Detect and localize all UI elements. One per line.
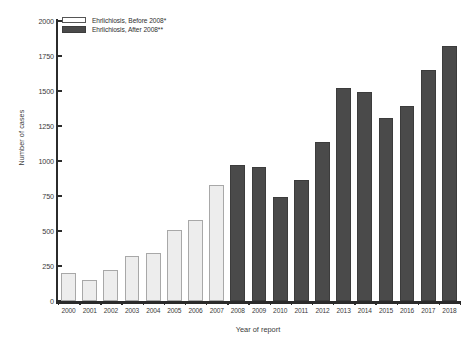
bar-2001[interactable]	[82, 280, 97, 301]
x-axis-tick	[121, 301, 122, 305]
x-axis-tick-label: 2012	[315, 307, 329, 314]
x-axis-tick-label: 2016	[400, 307, 414, 314]
bar-2012[interactable]	[315, 142, 330, 301]
bar-2008[interactable]	[230, 165, 245, 301]
y-axis-tick-label: 1750	[14, 52, 54, 61]
x-axis-tick	[185, 301, 186, 305]
bar-slot	[209, 21, 224, 301]
bar-slot	[379, 21, 394, 301]
x-axis-tick	[270, 301, 271, 305]
x-axis-tick	[206, 301, 207, 305]
bar-slot	[336, 21, 351, 301]
x-axis-tick-label: 2011	[295, 307, 309, 314]
y-axis-tick-label: 0	[14, 297, 54, 306]
bar-slot	[252, 21, 267, 301]
x-axis-tick	[227, 301, 228, 305]
x-axis-tick	[397, 301, 398, 305]
x-axis-tick-label: 2010	[273, 307, 287, 314]
x-axis-tick	[143, 301, 144, 305]
bar-2017[interactable]	[421, 70, 436, 301]
bar-slot	[230, 21, 245, 301]
bar-slot	[400, 21, 415, 301]
x-axis-tick-label: 2000	[62, 307, 76, 314]
bar-2009[interactable]	[252, 167, 267, 301]
bar-slot	[125, 21, 140, 301]
x-axis-tick-label: 2006	[188, 307, 202, 314]
x-axis-tick-label: 2005	[167, 307, 181, 314]
bar-slot	[315, 21, 330, 301]
x-axis-tick	[58, 301, 59, 305]
x-axis-tick	[312, 301, 313, 305]
bar-chart: Ehrlichiosis, Before 2008* Ehrlichiosis,…	[0, 0, 469, 349]
x-axis-tick-label: 2001	[83, 307, 97, 314]
bar-2006[interactable]	[188, 220, 203, 301]
bar-2010[interactable]	[273, 197, 288, 301]
x-axis-tick	[375, 301, 376, 305]
bar-slot	[357, 21, 372, 301]
x-axis-tick	[291, 301, 292, 305]
bar-2014[interactable]	[357, 92, 372, 301]
bar-2004[interactable]	[146, 253, 161, 301]
bar-2000[interactable]	[61, 273, 76, 301]
x-axis-tick	[333, 301, 334, 305]
x-axis-tick-label: 2017	[421, 307, 435, 314]
bar-2007[interactable]	[209, 185, 224, 301]
x-axis-tick-label: 2018	[442, 307, 456, 314]
plot-area	[58, 21, 460, 301]
y-axis-tick-label: 2000	[14, 17, 54, 26]
bar-slot	[167, 21, 182, 301]
x-axis-tick	[79, 301, 80, 305]
bar-slot	[421, 21, 436, 301]
y-axis-tick-label: 1250	[14, 122, 54, 131]
x-axis-tick-label: 2002	[104, 307, 118, 314]
bar-slot	[103, 21, 118, 301]
x-axis-tick-label: 2009	[252, 307, 266, 314]
x-axis-tick	[460, 301, 461, 305]
x-axis-line	[56, 301, 460, 304]
bar-2018[interactable]	[442, 46, 457, 302]
x-axis-tick-label: 2004	[146, 307, 160, 314]
bar-slot	[273, 21, 288, 301]
x-axis-tick-label: 2007	[210, 307, 224, 314]
y-axis-tick-label: 250	[14, 262, 54, 271]
x-axis-tick-label: 2013	[337, 307, 351, 314]
y-axis-tick-label: 750	[14, 192, 54, 201]
bar-2015[interactable]	[379, 118, 394, 301]
x-axis-tick	[100, 301, 101, 305]
bar-2013[interactable]	[336, 88, 351, 302]
bar-slot	[61, 21, 76, 301]
bar-2005[interactable]	[167, 230, 182, 301]
x-axis-tick-label: 2015	[379, 307, 393, 314]
bar-2011[interactable]	[294, 180, 309, 301]
bar-slot	[146, 21, 161, 301]
bar-slot	[442, 21, 457, 301]
bar-2002[interactable]	[103, 270, 118, 301]
x-axis-tick-label: 2014	[358, 307, 372, 314]
x-axis-tick	[164, 301, 165, 305]
x-axis-tick-label: 2003	[125, 307, 139, 314]
y-axis-tick-label: 500	[14, 227, 54, 236]
bar-2003[interactable]	[125, 256, 140, 302]
x-axis-tick-label: 2008	[231, 307, 245, 314]
bar-slot	[294, 21, 309, 301]
x-axis-tick	[439, 301, 440, 305]
x-axis-tick	[354, 301, 355, 305]
x-axis-title: Year of report	[56, 325, 460, 334]
bar-slot	[82, 21, 97, 301]
bar-2016[interactable]	[400, 106, 415, 301]
y-axis-tick-label: 1500	[14, 87, 54, 96]
y-axis-tick-label: 1000	[14, 157, 54, 166]
x-axis-tick	[248, 301, 249, 305]
bar-slot	[188, 21, 203, 301]
x-axis-tick	[418, 301, 419, 305]
